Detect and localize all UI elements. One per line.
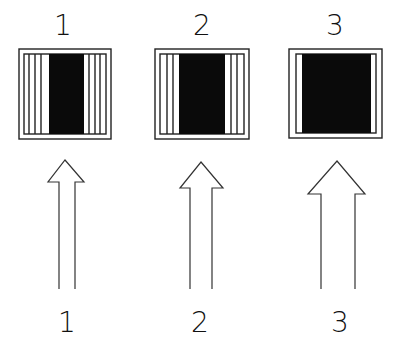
top-label-3: 3 xyxy=(326,9,344,42)
diagram-canvas: 1 2 3 xyxy=(0,0,397,349)
top-label-2: 2 xyxy=(193,9,211,42)
panel-2-black-bar xyxy=(179,54,225,134)
bottom-label-3: 3 xyxy=(331,306,349,339)
panel-2 xyxy=(155,49,249,139)
arrow-bottom-mask xyxy=(40,289,380,293)
panel-3-black-bar xyxy=(302,54,371,133)
arrow-up-icon-3 xyxy=(308,161,365,290)
panel-1 xyxy=(19,49,111,139)
top-label-1: 1 xyxy=(54,9,72,42)
bottom-label-1: 1 xyxy=(58,306,76,339)
panel-1-black-bar xyxy=(49,54,84,134)
arrow-up-icon-2 xyxy=(180,162,223,290)
bottom-label-2: 2 xyxy=(191,306,209,339)
arrow-up-icon-1 xyxy=(48,160,84,290)
panel-3 xyxy=(289,49,382,138)
